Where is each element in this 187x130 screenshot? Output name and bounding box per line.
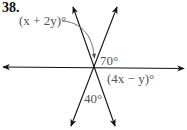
angle-pointer-arc [62, 21, 94, 55]
problem-number: 38. [2, 0, 20, 16]
angle-pointer-arrowhead [92, 54, 96, 60]
angle-label-70: 70° [100, 53, 118, 69]
angle-label-lower-right: (4x − y)° [107, 71, 154, 87]
angle-diagram: 38. (x + 2y)° 70° (4x − y)° 40° [0, 0, 187, 130]
angle-label-40: 40° [84, 91, 102, 107]
angle-label-upper: (x + 2y)° [19, 13, 66, 29]
